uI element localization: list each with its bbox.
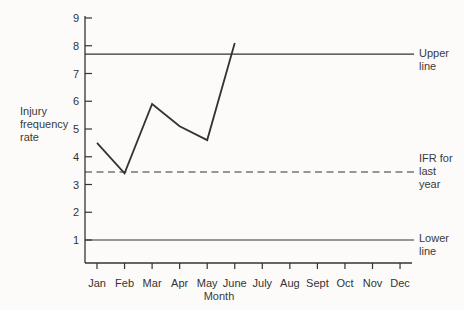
- x-tick-label: Jan: [88, 277, 106, 289]
- x-tick-label: June: [223, 277, 247, 289]
- y-tick-label: 1: [73, 234, 79, 246]
- y-tick-label: 3: [73, 179, 79, 191]
- x-tick-label: Dec: [390, 277, 410, 289]
- x-tick-label: May: [197, 277, 218, 289]
- lower-line-label-line: Lower: [419, 232, 464, 245]
- x-tick-label: Oct: [336, 277, 353, 289]
- lower-line-label-line: line: [419, 245, 464, 258]
- y-tick-label: 2: [73, 206, 79, 218]
- y-axis-title: Injury frequency rate: [20, 105, 84, 144]
- x-tick-label: Feb: [115, 277, 134, 289]
- series-line-injury-frequency-rate-current: [97, 43, 235, 173]
- x-tick-label: Aug: [280, 277, 300, 289]
- ifr-last-year-label: IFR for last year: [419, 152, 464, 191]
- y-tick-label: 4: [73, 151, 79, 163]
- upper-line-label: Upper line: [419, 47, 464, 73]
- ifr-label-line: year: [419, 178, 464, 191]
- x-axis: JanFebMarAprMayJuneJulyAugSeptOctNovDec: [85, 263, 412, 289]
- y-tick-label: 8: [73, 40, 79, 52]
- y-axis-title-line: frequency: [20, 118, 84, 131]
- x-tick-label: Sept: [306, 277, 329, 289]
- y-tick-label: 9: [73, 12, 79, 24]
- x-tick-label: Mar: [143, 277, 162, 289]
- ifr-label-line: last: [419, 165, 464, 178]
- lower-line-label: Lower line: [419, 232, 464, 258]
- injury-frequency-chart: 123456789 JanFebMarAprMayJuneJulyAugSept…: [0, 0, 464, 310]
- x-axis-title: Month: [191, 290, 247, 302]
- y-tick-label: 7: [73, 68, 79, 80]
- data-series: [97, 43, 235, 173]
- y-axis-title-line: Injury: [20, 105, 84, 118]
- ifr-label-line: IFR for: [419, 152, 464, 165]
- chart-svg: 123456789 JanFebMarAprMayJuneJulyAugSept…: [0, 0, 464, 310]
- upper-line-label-line: Upper: [419, 47, 464, 60]
- x-tick-label: Apr: [171, 277, 188, 289]
- x-tick-label: Nov: [363, 277, 383, 289]
- y-axis-title-line: rate: [20, 131, 84, 144]
- x-tick-label: July: [253, 277, 273, 289]
- upper-line-label-line: line: [419, 60, 464, 73]
